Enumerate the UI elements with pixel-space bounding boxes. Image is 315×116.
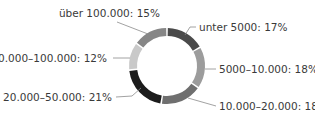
donut-chart: unter 5000: 17%5000–10.000: 18%10.000–20… bbox=[0, 0, 315, 116]
donut-slice bbox=[137, 28, 166, 48]
slice-label: 20.000–50.000: 21% bbox=[3, 91, 112, 103]
donut-slice bbox=[129, 70, 161, 103]
donut-slice bbox=[162, 84, 198, 104]
donut-slice bbox=[192, 48, 205, 87]
leader-line bbox=[117, 22, 148, 34]
donut-slice bbox=[168, 28, 200, 51]
slice-label: 5000–10.000: 18% bbox=[219, 63, 315, 75]
leader-line bbox=[188, 98, 216, 106]
slice-label: 10.000–20.000: 18% bbox=[219, 100, 315, 112]
donut-slices bbox=[129, 28, 205, 104]
slice-label: über 100.000: 15% bbox=[59, 7, 160, 19]
donut-slice bbox=[129, 44, 143, 69]
slice-label: unter 5000: 17% bbox=[199, 21, 287, 33]
slice-label: 50.000–100.000: 12% bbox=[0, 52, 107, 64]
